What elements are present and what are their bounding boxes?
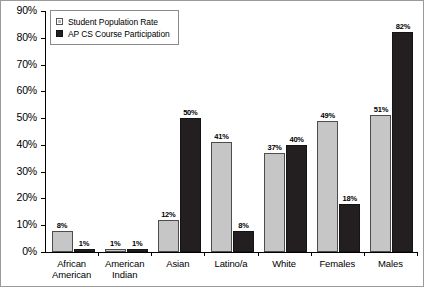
legend-item-label: AP CS Course Participation [68, 29, 170, 39]
bar-ap-cs-course-participation: 18% [339, 204, 360, 252]
bar-group: 12%50% [155, 11, 201, 252]
x-axis-tick-mark [364, 252, 365, 256]
x-axis-tick-mark [98, 252, 99, 256]
x-axis-category-label-line: American [98, 258, 151, 269]
x-axis-category-label-line: Latino/a [204, 258, 257, 269]
y-axis-tick-label: 10% [17, 218, 37, 230]
bar-ap-cs-course-participation: 50% [180, 118, 201, 252]
bar-value-label: 49% [321, 111, 335, 120]
y-axis-tick-label: 0% [22, 245, 37, 257]
plot-area: 8%1%1%1%12%50%41%8%37%40%49%18%51%82% [45, 11, 417, 252]
bar-student-population-rate: 8% [52, 231, 73, 252]
bar-value-label: 8% [238, 221, 248, 230]
bar-value-label: 82% [396, 22, 410, 31]
bar-ap-cs-course-participation: 1% [127, 249, 148, 252]
x-axis-category-label: Females [311, 258, 364, 269]
x-axis-category-label-line: Females [311, 258, 364, 269]
x-axis-category-label: Asian [151, 258, 204, 269]
y-axis-tick-label: 70% [17, 58, 37, 70]
x-axis-category-label: Latino/a [204, 258, 257, 269]
legend-swatch-icon [56, 30, 63, 37]
x-axis-tick-mark [417, 252, 418, 256]
bar-group: 37%40% [261, 11, 307, 252]
y-axis-tick-label: 40% [17, 138, 37, 150]
bar-ap-cs-course-participation: 82% [392, 32, 413, 252]
legend-item: AP CS Course Participation [56, 28, 170, 39]
bar-group: 41%8% [208, 11, 254, 252]
x-axis-tick-mark [258, 252, 259, 256]
bar-student-population-rate: 49% [317, 121, 338, 252]
bar-ap-cs-course-participation: 8% [233, 231, 254, 252]
x-axis-category-label: White [258, 258, 311, 269]
y-axis-tick-label: 60% [17, 84, 37, 96]
bar-ap-cs-course-participation: 40% [286, 145, 307, 252]
legend-item: Student Population Rate [56, 16, 170, 27]
bar-value-label: 1% [79, 239, 89, 248]
bar-value-label: 40% [289, 135, 303, 144]
x-axis-line [45, 252, 417, 253]
y-axis-tick-mark [41, 252, 45, 253]
bar-student-population-rate: 12% [158, 220, 179, 252]
bar-value-label: 18% [343, 194, 357, 203]
bar-group: 49%18% [314, 11, 360, 252]
x-axis-category-label: AfricanAmerican [45, 258, 98, 280]
bar-value-label: 50% [183, 108, 197, 117]
x-axis-category-label-line: Males [364, 258, 417, 269]
x-axis-category-label-line: African [45, 258, 98, 269]
y-axis-tick-label: 30% [17, 165, 37, 177]
bar-value-label: 51% [374, 105, 388, 114]
bar-value-label: 41% [214, 132, 228, 141]
x-axis-category-label: Males [364, 258, 417, 269]
x-axis-category-label-line: Indian [98, 269, 151, 280]
x-axis-tick-mark [311, 252, 312, 256]
x-axis-category-label-line: American [45, 269, 98, 280]
bar-student-population-rate: 51% [370, 115, 391, 252]
chart-legend: Student Population RateAP CS Course Part… [50, 10, 179, 45]
x-axis-tick-mark [204, 252, 205, 256]
bar-value-label: 12% [161, 210, 175, 219]
x-axis-category-label-line: Asian [151, 258, 204, 269]
x-axis-category-label-line: White [258, 258, 311, 269]
legend-swatch-icon [56, 18, 63, 25]
bar-value-label: 8% [57, 221, 67, 230]
bar-group: 1%1% [102, 11, 148, 252]
y-axis-tick-label: 50% [17, 111, 37, 123]
bar-value-label: 1% [132, 239, 142, 248]
bar-group: 51%82% [367, 11, 413, 252]
x-axis-tick-mark [151, 252, 152, 256]
bar-group: 8%1% [49, 11, 95, 252]
bar-ap-cs-course-participation: 1% [74, 249, 95, 252]
bar-value-label: 37% [267, 143, 281, 152]
y-axis-tick-label: 20% [17, 191, 37, 203]
x-axis-category-label: AmericanIndian [98, 258, 151, 280]
y-axis-tick-label: 80% [17, 31, 37, 43]
y-axis-tick-label: 90% [17, 4, 37, 16]
bar-student-population-rate: 41% [211, 142, 232, 252]
bar-student-population-rate: 37% [264, 153, 285, 252]
bar-value-label: 1% [110, 239, 120, 248]
bar-chart: 90%80%70%60%50%40%30%20%10%0% 8%1%1%1%12… [0, 0, 424, 287]
bar-student-population-rate: 1% [105, 249, 126, 252]
legend-item-label: Student Population Rate [68, 17, 158, 27]
